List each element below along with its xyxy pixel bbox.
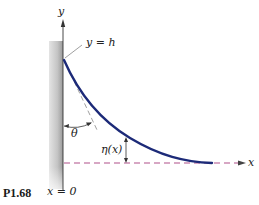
angle-theta-marker xyxy=(64,123,92,129)
angle-label: θ xyxy=(71,127,78,140)
top-point-label: y = h xyxy=(86,36,116,49)
y-axis-arrow-icon xyxy=(61,19,65,27)
y-axis-label: y xyxy=(58,5,64,18)
figure-number: P1.68 xyxy=(3,186,31,201)
x-axis-baseline xyxy=(64,161,246,166)
height-function-label: η(x) xyxy=(101,143,122,156)
wall xyxy=(49,41,63,189)
meniscus-curve xyxy=(64,60,212,163)
diagram-canvas xyxy=(0,0,259,205)
origin-label: x = 0 xyxy=(47,185,76,198)
y-equals-h-leader xyxy=(65,45,82,58)
meniscus-diagram: y y = h θ η(x) x x = 0 P1.68 xyxy=(0,0,259,205)
x-axis-arrow-icon xyxy=(238,161,246,166)
eta-height-arrow xyxy=(124,137,128,163)
x-axis-label: x xyxy=(248,156,254,169)
